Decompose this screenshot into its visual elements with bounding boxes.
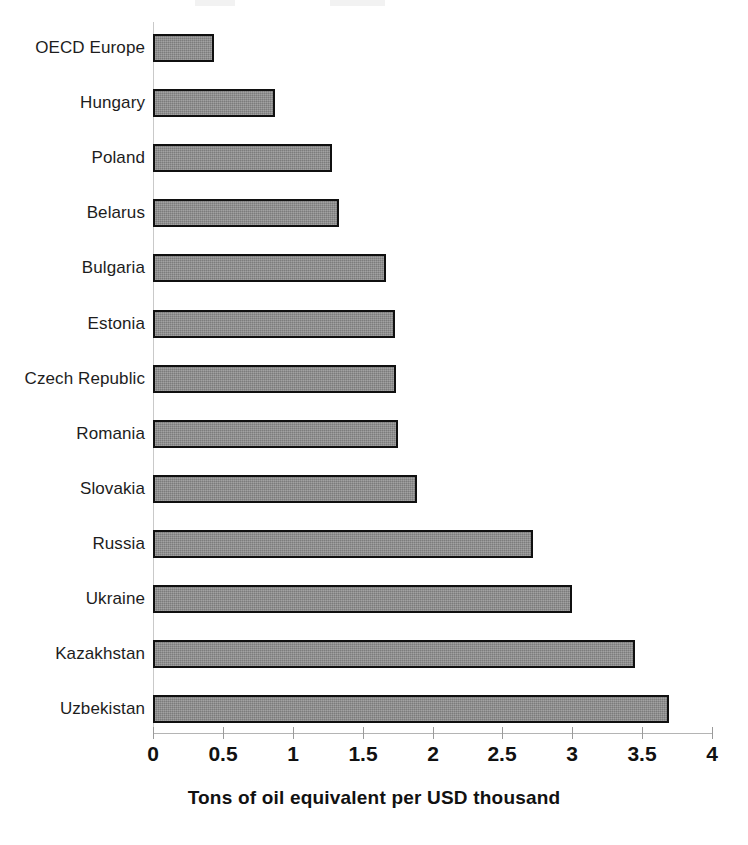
- x-tick-mark: [153, 727, 154, 739]
- x-tick-label: 4: [682, 742, 742, 766]
- x-tick-mark: [712, 727, 713, 739]
- x-tick-label: 0.5: [193, 742, 253, 766]
- x-tick-label: 3: [542, 742, 602, 766]
- x-tick-mark: [223, 727, 224, 739]
- horizontal-bar-chart: OECD EuropeHungaryPolandBelarusBulgariaE…: [0, 0, 748, 845]
- x-tick-label: 2: [403, 742, 463, 766]
- x-tick-mark: [363, 727, 364, 739]
- x-tick-mark: [433, 727, 434, 739]
- x-axis-title: Tons of oil equivalent per USD thousand: [0, 787, 748, 809]
- x-tick-label: 1.5: [333, 742, 393, 766]
- x-tick-mark: [502, 727, 503, 739]
- x-tick-label: 2.5: [472, 742, 532, 766]
- x-tick-label: 0: [123, 742, 183, 766]
- x-tick-mark: [642, 727, 643, 739]
- x-axis-ticks: 00.511.522.533.54: [0, 0, 748, 845]
- x-tick-label: 1: [263, 742, 323, 766]
- x-tick-mark: [293, 727, 294, 739]
- x-tick-label: 3.5: [612, 742, 672, 766]
- x-tick-mark: [572, 727, 573, 739]
